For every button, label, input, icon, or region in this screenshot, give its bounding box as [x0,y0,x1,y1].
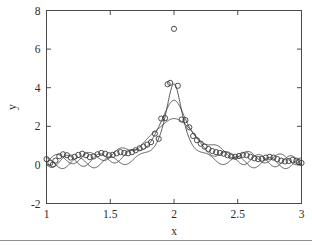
axis-titles: xy [6,104,177,237]
scatter-plot: 11.522.53 -202468 xy [0,0,312,245]
fit-curve [47,84,302,169]
y-tick-label: 6 [35,43,41,55]
x-tick-label: 2 [171,208,177,220]
footer-divider [0,240,312,241]
y-tick-label: 8 [35,5,41,17]
axes-frame [47,11,302,204]
data-point [53,158,58,163]
y-tick-label: 4 [35,82,41,94]
x-tick-label: 3 [299,208,305,220]
x-axis-title: x [171,225,177,237]
y-axis-ticks: -202468 [31,5,302,210]
x-tick-label: 1.5 [103,208,118,220]
x-axis-ticks: 11.522.53 [44,11,305,220]
y-axis-title: y [6,104,19,110]
data-point [148,140,153,145]
y-tick-label: -2 [31,198,41,210]
y-tick-label: 0 [35,159,41,171]
data-point [171,26,176,31]
x-tick-label: 2.5 [231,208,246,220]
data-point-markers [44,26,304,167]
x-tick-label: 1 [44,208,50,220]
y-tick-label: 2 [35,120,41,132]
fitted-curves [47,84,302,169]
plot-frame [47,11,302,204]
figure-container: 11.522.53 -202468 xy [0,0,312,245]
